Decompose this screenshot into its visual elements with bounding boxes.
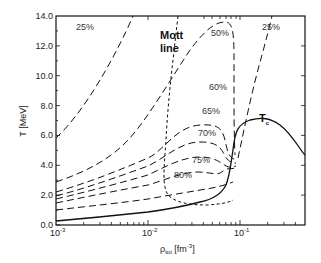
label-70: 70% xyxy=(198,128,216,138)
x-tick-labels: 10-3 10-2 10-1 xyxy=(50,227,250,238)
x-axis-title: ρtot [fm-3] xyxy=(160,243,195,255)
label-60: 60% xyxy=(209,82,227,92)
y-tick-8: 8.0 xyxy=(40,101,53,111)
x-tick-1e-3: 10-3 xyxy=(50,227,66,238)
y-tick-4: 4.0 xyxy=(40,160,53,170)
y-tick-6: 6.0 xyxy=(40,130,53,140)
curve-25-left xyxy=(56,16,133,138)
y-tick-14: 14.0 xyxy=(35,11,53,21)
y-tick-10: 10.0 xyxy=(35,71,53,81)
label-mott-2: line xyxy=(160,42,179,54)
y-axis-title: T [MeV] xyxy=(18,105,28,136)
label-25-left: 25% xyxy=(76,22,94,32)
x-tick-1e-2: 10-2 xyxy=(142,227,158,238)
curve-75 xyxy=(56,168,236,203)
chart: 0.0 2.0 4.0 6.0 8.0 10.0 12.0 14.0 10-3 … xyxy=(0,0,321,263)
label-50: 50% xyxy=(211,28,229,38)
label-75: 75% xyxy=(192,155,210,165)
label-25-right: 25% xyxy=(262,22,280,32)
label-80: 80% xyxy=(174,170,192,180)
curve-80 xyxy=(56,182,233,210)
x-tick-1e-1: 10-1 xyxy=(234,227,250,238)
y-tick-12: 12.0 xyxy=(35,41,53,51)
curve-25-right xyxy=(238,16,272,158)
label-mott-1: Mott xyxy=(160,29,184,41)
y-tick-labels: 0.0 2.0 4.0 6.0 8.0 10.0 12.0 14.0 xyxy=(35,11,53,230)
label-65: 65% xyxy=(202,106,220,116)
curve-65 xyxy=(56,142,236,196)
y-tick-2: 2.0 xyxy=(40,190,53,200)
